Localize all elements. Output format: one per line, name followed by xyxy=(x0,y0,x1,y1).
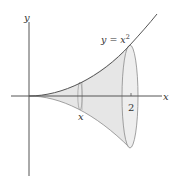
curve-equation-lhs: y = x xyxy=(100,34,126,45)
slice-x-label: x xyxy=(78,111,84,122)
y-axis-label: y xyxy=(23,12,30,23)
diagram-canvas: y x y = x2 x 2 xyxy=(0,0,178,182)
curve-equation-exponent: 2 xyxy=(126,33,130,41)
tick-2-label: 2 xyxy=(128,102,134,113)
curve-equation-label: y = x2 xyxy=(100,33,130,45)
solid-of-revolution-diagram: y x y = x2 x 2 xyxy=(0,0,178,182)
x-axis-label: x xyxy=(163,91,169,102)
